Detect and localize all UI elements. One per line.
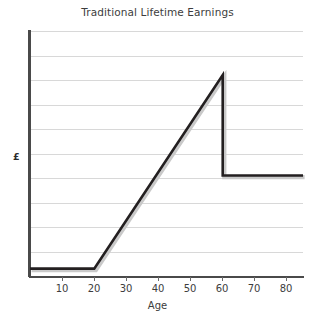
gridline [30, 80, 303, 81]
x-axis-tick [254, 277, 255, 281]
chart-figure: Traditional Lifetime Earnings 10 20 30 4… [0, 0, 315, 329]
x-axis-tick-label: 20 [88, 283, 101, 294]
x-axis-tick-label: 10 [56, 283, 69, 294]
x-axis-tick-label: 70 [248, 283, 261, 294]
x-axis-tick-label: 50 [184, 283, 197, 294]
gridline [30, 178, 303, 179]
y-axis-line [28, 30, 31, 277]
plot-area [30, 31, 303, 276]
x-axis-line [29, 276, 304, 278]
x-axis-tick [158, 277, 159, 281]
x-axis-tick [62, 277, 63, 281]
x-axis-tick [190, 277, 191, 281]
chart-title: Traditional Lifetime Earnings [0, 6, 315, 18]
gridline [30, 252, 303, 253]
x-axis-tick-label: 60 [216, 283, 229, 294]
gridline [30, 56, 303, 57]
x-axis-tick [94, 277, 95, 281]
gridline [30, 203, 303, 204]
x-axis-tick-label: 30 [120, 283, 133, 294]
gridline [30, 129, 303, 130]
x-axis-tick [286, 277, 287, 281]
x-axis-tick-label: 80 [280, 283, 293, 294]
x-axis-label: Age [0, 300, 315, 311]
gridline [30, 154, 303, 155]
gridline [30, 31, 303, 32]
x-axis-tick [126, 277, 127, 281]
y-axis-label: £ [13, 151, 20, 162]
x-axis-tick [222, 277, 223, 281]
gridline [30, 227, 303, 228]
gridline [30, 105, 303, 106]
x-axis-tick-label: 40 [152, 283, 165, 294]
